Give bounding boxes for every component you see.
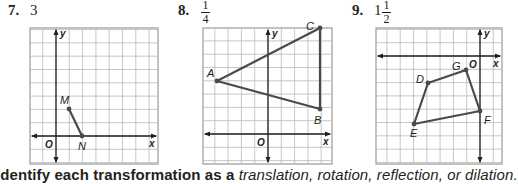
vertex-point-E xyxy=(412,122,417,127)
grid-problem-7: xyOMN xyxy=(30,28,158,164)
vertex-label-E: E xyxy=(410,127,418,139)
grid-problem-8: xyOACB xyxy=(203,20,332,164)
vertex-point-C xyxy=(318,26,323,31)
vertex-label-D: D xyxy=(416,73,424,85)
vertex-point-N xyxy=(80,134,85,139)
vertex-point-D xyxy=(426,81,431,86)
y-axis-label: y xyxy=(271,28,278,39)
instruction-lead: Identify each transformation as a xyxy=(0,166,239,183)
vertex-point-B xyxy=(318,107,323,112)
vertex-point-M xyxy=(67,107,72,112)
x-axis-label: x xyxy=(148,138,155,149)
origin-label: O xyxy=(257,137,265,148)
vertex-label-G: G xyxy=(452,60,461,72)
vertex-label-N: N xyxy=(78,140,86,152)
instruction-text: Identify each transformation as a transl… xyxy=(0,166,518,183)
x-axis-label: x xyxy=(322,136,329,147)
grid-problem-9: xyODGFE xyxy=(376,28,502,164)
y-axis-label: y xyxy=(59,28,66,39)
vertex-label-M: M xyxy=(60,94,70,106)
vertex-label-B: B xyxy=(314,114,321,126)
vertex-point-A xyxy=(215,79,220,84)
vertex-point-G xyxy=(464,68,469,73)
vertex-label-A: A xyxy=(206,67,214,79)
vertex-point-F xyxy=(478,109,483,114)
instruction-terms: translation, rotation, reflection, or di… xyxy=(239,166,518,183)
origin-label: O xyxy=(45,139,53,150)
origin-label: O xyxy=(469,59,477,70)
vertex-label-C: C xyxy=(306,20,314,32)
y-axis-label: y xyxy=(483,28,490,39)
x-axis-label: x xyxy=(492,58,499,69)
